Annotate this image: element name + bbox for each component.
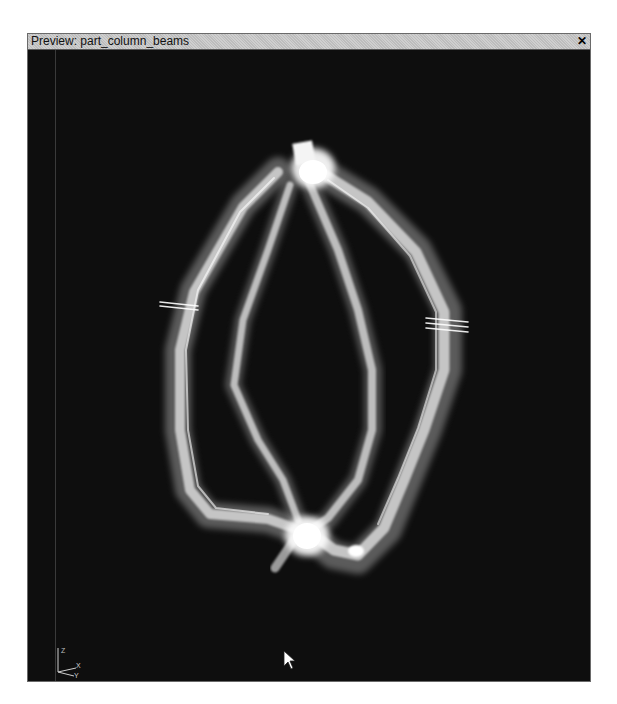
- window-title: Preview: part_column_beams: [31, 34, 189, 49]
- column-beams-model: [28, 50, 590, 681]
- title-bar[interactable]: Preview: part_column_beams ✕: [28, 34, 590, 50]
- svg-text:Y: Y: [74, 672, 79, 679]
- svg-text:X: X: [76, 662, 81, 669]
- svg-text:Z: Z: [61, 647, 66, 654]
- mouse-cursor-icon: [283, 650, 299, 672]
- axis-gizmo-icon: Z X Y: [50, 644, 90, 681]
- preview-window: Preview: part_column_beams ✕: [27, 33, 591, 682]
- close-icon[interactable]: ✕: [575, 34, 588, 49]
- 3d-viewport[interactable]: Z X Y: [28, 50, 590, 681]
